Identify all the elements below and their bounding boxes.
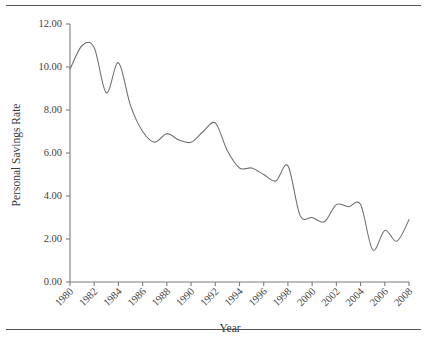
y-tick-label: 2.00 — [44, 233, 62, 244]
y-axis-ticks: 0.002.004.006.008.0010.0012.00 — [38, 18, 70, 287]
line-chart: 0.002.004.006.008.0010.0012.00 198019821… — [0, 0, 427, 349]
data-series-line — [70, 42, 409, 250]
y-tick-label: 10.00 — [38, 61, 62, 72]
x-tick-label: 1986 — [125, 286, 148, 309]
x-tick-label: 1990 — [174, 286, 197, 309]
x-tick-label: 2000 — [295, 286, 318, 309]
x-tick-label: 1988 — [150, 286, 173, 309]
x-tick-label: 1980 — [53, 286, 76, 309]
plot-area: 0.002.004.006.008.0010.0012.00 198019821… — [0, 0, 427, 349]
x-tick-label: 2008 — [392, 286, 415, 309]
y-tick-label: 4.00 — [44, 190, 62, 201]
figure-container: 0.002.004.006.008.0010.0012.00 198019821… — [0, 0, 427, 349]
x-axis-title: Year — [219, 322, 240, 334]
x-tick-label: 1992 — [198, 286, 221, 309]
x-tick-label: 1994 — [222, 285, 245, 308]
x-tick-label: 1982 — [77, 286, 100, 309]
y-tick-label: 8.00 — [44, 104, 62, 115]
y-tick-label: 12.00 — [38, 18, 62, 29]
x-tick-label: 1998 — [271, 286, 294, 309]
x-axis-ticks: 1980198219841986198819901992199419961998… — [53, 282, 415, 308]
y-tick-label: 0.00 — [44, 276, 62, 287]
x-tick-label: 2002 — [319, 286, 342, 309]
x-tick-label: 2004 — [343, 285, 366, 308]
x-tick-label: 2006 — [368, 286, 391, 309]
x-tick-label: 1996 — [247, 286, 270, 309]
x-tick-label: 1984 — [101, 285, 124, 308]
y-tick-label: 6.00 — [44, 147, 62, 158]
y-axis-title: Personal Savings Rate — [10, 104, 23, 207]
